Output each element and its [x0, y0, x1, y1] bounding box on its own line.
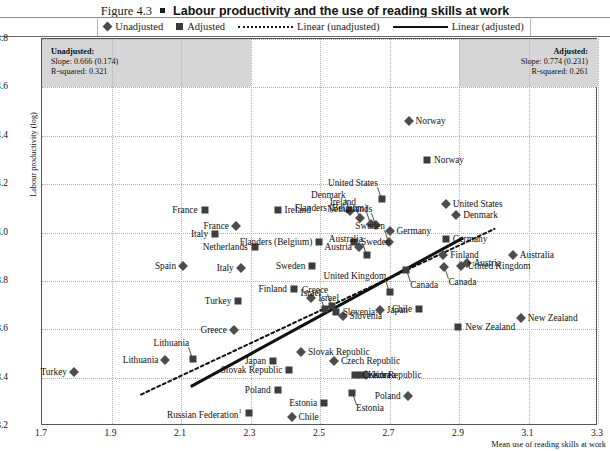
y-axis-tick-label: 4.6 [0, 81, 8, 91]
point-label: Chile [299, 412, 319, 422]
point-label: New Zealand [465, 322, 515, 332]
legend-item-unadjusted[interactable]: Unadjusted [104, 21, 163, 32]
point-label: Russian Federation1 [167, 406, 242, 419]
y-axis-tick-label: 3.6 [0, 323, 8, 333]
point-label: Sweden [355, 221, 384, 231]
data-point-square[interactable] [455, 324, 462, 331]
y-axis-tick-label: 3.2 [0, 420, 8, 430]
x-axis-tick-label: 2.7 [383, 428, 395, 438]
point-label: United Kingdom [323, 271, 386, 281]
data-point-square[interactable] [270, 358, 277, 365]
figure-title-row: Figure 4.3 Labour productivity and the u… [0, 1, 610, 16]
data-point-square[interactable] [332, 308, 339, 315]
point-label: Germany [397, 226, 432, 236]
point-label: Denmark [463, 210, 498, 220]
point-label: Canada [448, 277, 476, 287]
trend-lines [42, 39, 598, 426]
data-point-square[interactable] [387, 289, 394, 296]
y-axis-tick-label: 4.2 [0, 178, 8, 188]
point-label: Turkey [205, 296, 232, 306]
legend-label-adjusted: Adjusted [187, 21, 225, 32]
x-axis-tick-label: 3.3 [591, 428, 603, 438]
legend-label-linear-unadjusted: Linear (unadjusted) [297, 21, 380, 32]
data-point-square[interactable] [309, 262, 316, 269]
legend-item-adjusted[interactable]: Adjusted [176, 21, 225, 32]
data-point-square[interactable] [212, 230, 219, 237]
legend-item-linear-adjusted[interactable]: Linear (adjusted) [393, 21, 524, 32]
point-label: Israel [301, 288, 322, 298]
point-label: Lithuania [123, 355, 159, 365]
data-point-square[interactable] [190, 355, 197, 362]
y-axis-label: Labour productivity (log) [29, 95, 38, 215]
data-point-square[interactable] [348, 389, 355, 396]
data-point-square[interactable] [235, 297, 242, 304]
point-label: Ireland [285, 205, 311, 215]
legend-label-linear-adjusted: Linear (adjusted) [452, 21, 524, 32]
point-label: Chile [392, 304, 412, 314]
grid-line-vertical [598, 39, 599, 424]
point-label: Italy [191, 229, 208, 239]
point-label: Flanders (Belgium) [240, 237, 313, 247]
point-label: Czech Republic [341, 356, 400, 366]
point-label: Netherlands [327, 204, 372, 214]
point-label: France [172, 205, 197, 215]
point-label: Slovenia [343, 307, 376, 317]
data-point-square[interactable] [322, 306, 329, 313]
point-label: Australia [520, 250, 554, 260]
point-label: Finland [259, 284, 287, 294]
legend-item-linear-unadjusted[interactable]: Linear (unadjusted) [238, 21, 380, 32]
solid-line-icon [393, 26, 448, 28]
data-point-square[interactable] [424, 157, 431, 164]
point-label: Norway [434, 155, 464, 165]
point-label: Greece [200, 325, 226, 335]
y-axis-tick-label: 4.8 [0, 33, 8, 43]
legend-bottom-rule [0, 36, 610, 37]
plot-area: Unadjusted: Slope: 0.666 (0.174) R-squar… [41, 38, 597, 425]
point-label: United States [453, 199, 503, 209]
point-label: Netherlands [203, 242, 248, 252]
data-point-square[interactable] [378, 196, 385, 203]
data-point-square[interactable] [316, 238, 323, 245]
point-label: Germany [453, 234, 488, 244]
y-axis-tick-label: 3.4 [0, 372, 8, 382]
point-label: Finland [450, 250, 478, 260]
point-label: Slovak Republic [221, 365, 283, 375]
data-point-square[interactable] [274, 387, 281, 394]
data-point-square[interactable] [201, 207, 208, 214]
data-point-square[interactable] [403, 266, 410, 273]
point-label: Sweden [276, 261, 305, 271]
point-label: Australia [329, 234, 363, 244]
square-bullet-icon [160, 8, 165, 13]
diamond-marker-icon [103, 22, 113, 32]
data-point-square[interactable] [321, 400, 328, 407]
x-axis-label: Mean use of reading skills at work [491, 440, 606, 449]
point-label: Turkey [40, 367, 67, 377]
data-point-square[interactable] [245, 409, 252, 416]
x-axis-tick-label: 2.1 [174, 428, 186, 438]
y-axis-tick-label: 3.8 [0, 275, 8, 285]
y-axis-tick-label: 4.0 [0, 227, 8, 237]
point-label: Korea [368, 370, 391, 380]
square-marker-icon [176, 23, 183, 30]
point-label: New Zealand [528, 313, 578, 323]
data-point-square[interactable] [363, 252, 370, 259]
y-axis-tick-label: 4.4 [0, 130, 8, 140]
point-label: Norway [416, 116, 446, 126]
figure-container: Figure 4.3 Labour productivity and the u… [0, 0, 610, 451]
point-label: Poland [245, 385, 271, 395]
figure-number: Figure 4.3 [101, 4, 152, 18]
data-point-square[interactable] [274, 207, 281, 214]
point-label: Lithuania [154, 338, 190, 348]
page-title: Labour productivity and the use of readi… [173, 4, 509, 18]
point-label: Sweden [361, 237, 390, 247]
point-label: United Kingdom [468, 261, 531, 271]
point-label: Poland [375, 391, 401, 401]
data-point-square[interactable] [442, 235, 449, 242]
point-label: Canada [410, 280, 438, 290]
x-axis-tick-label: 2.9 [452, 428, 464, 438]
point-label: Italy [217, 263, 234, 273]
data-point-square[interactable] [286, 366, 293, 373]
legend-label-unadjusted: Unadjusted [115, 21, 163, 32]
data-point-square[interactable] [290, 286, 297, 293]
data-point-square[interactable] [416, 306, 423, 313]
